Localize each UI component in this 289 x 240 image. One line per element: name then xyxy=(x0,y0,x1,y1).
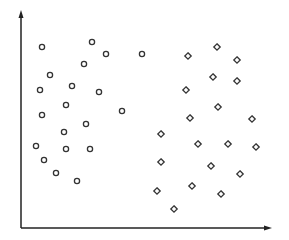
diamond-marker-icon xyxy=(234,57,240,63)
circle-marker-icon xyxy=(33,143,38,148)
circle-marker-icon xyxy=(39,44,44,49)
circle-marker-icon xyxy=(96,89,101,94)
diamond-marker-icon xyxy=(215,104,221,110)
circle-marker-icon xyxy=(63,102,68,107)
diamond-marker-icon xyxy=(249,116,255,122)
diamond-marker-icon xyxy=(210,74,216,80)
scatter-plot xyxy=(0,0,289,240)
diamond-marker-icon xyxy=(154,188,160,194)
circle-marker-icon xyxy=(47,72,52,77)
circle-marker-icon xyxy=(74,178,79,183)
diamond-marker-icon xyxy=(214,44,220,50)
class-circle-series xyxy=(33,39,144,183)
circle-marker-icon xyxy=(69,83,74,88)
y-axis-arrow-icon xyxy=(19,10,24,18)
circle-marker-icon xyxy=(89,39,94,44)
circle-marker-icon xyxy=(139,51,144,56)
circle-marker-icon xyxy=(83,121,88,126)
diamond-marker-icon xyxy=(237,171,243,177)
diamond-marker-icon xyxy=(225,141,231,147)
circle-marker-icon xyxy=(39,112,44,117)
diamond-marker-icon xyxy=(189,183,195,189)
circle-marker-icon xyxy=(61,129,66,134)
circle-marker-icon xyxy=(53,170,58,175)
diamond-marker-icon xyxy=(253,144,259,150)
data-markers xyxy=(33,39,259,212)
diamond-marker-icon xyxy=(183,87,189,93)
diamond-marker-icon xyxy=(234,78,240,84)
scatter-chart xyxy=(0,0,289,240)
diamond-marker-icon xyxy=(158,159,164,165)
diamond-marker-icon xyxy=(218,191,224,197)
circle-marker-icon xyxy=(81,61,86,66)
circle-marker-icon xyxy=(87,146,92,151)
diamond-marker-icon xyxy=(195,141,201,147)
diamond-marker-icon xyxy=(187,115,193,121)
circle-marker-icon xyxy=(41,157,46,162)
circle-marker-icon xyxy=(37,87,42,92)
diamond-marker-icon xyxy=(185,53,191,59)
circle-marker-icon xyxy=(119,108,124,113)
x-axis-arrow-icon xyxy=(264,226,272,231)
diamond-marker-icon xyxy=(208,163,214,169)
circle-marker-icon xyxy=(103,51,108,56)
circle-marker-icon xyxy=(63,146,68,151)
diamond-marker-icon xyxy=(171,206,177,212)
axes xyxy=(19,10,273,231)
diamond-marker-icon xyxy=(158,131,164,137)
class-diamond-series xyxy=(154,44,259,212)
